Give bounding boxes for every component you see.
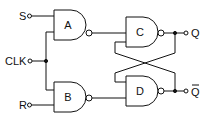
qbar-label: Q [191,86,200,98]
gate-d-label: D [136,85,144,97]
clk-junction [44,59,47,62]
clk-label: CLK [5,55,27,67]
r-input-terminal [28,103,32,107]
clk-input-terminal [28,59,32,63]
s-input-terminal [28,14,32,18]
q-output-terminal [184,31,188,35]
q-feedback-wire [115,33,175,82]
qbar-output-terminal [184,89,188,93]
q-label: Q [191,27,200,39]
flip-flop-diagram: S CLK R A B C D Q Q [0,0,212,118]
gate-c-bubble [158,30,164,36]
gate-a-label: A [64,19,72,31]
qbar-feedback-wire [115,42,175,91]
gate-c-label: C [136,26,144,38]
gate-b-bubble [86,95,92,101]
gate-b-label: B [64,91,71,103]
gate-a-bubble [86,30,92,36]
s-label: S [19,10,26,22]
gate-d-bubble [158,88,164,94]
r-label: R [19,99,27,111]
